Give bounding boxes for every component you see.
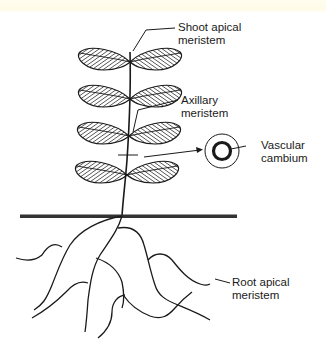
label-line: Shoot apical bbox=[178, 21, 241, 34]
vascular-cambium-ring bbox=[214, 143, 231, 160]
label-line: meristem bbox=[232, 289, 290, 302]
label-line: Axillary bbox=[181, 94, 228, 107]
label-shoot-apical-meristem: Shoot apical meristem bbox=[178, 21, 241, 46]
label-axillary-meristem: Axillary meristem bbox=[181, 94, 228, 119]
label-line: meristem bbox=[178, 34, 241, 47]
shoot-apical-leader bbox=[133, 28, 175, 51]
label-line: Root apical bbox=[232, 276, 290, 289]
label-line: meristem bbox=[181, 107, 228, 120]
cross-section-outer bbox=[205, 134, 239, 168]
ground-line bbox=[20, 215, 237, 219]
diagram-canvas: Shoot apical meristem Axillary meristem … bbox=[0, 0, 326, 353]
root-apical-leader bbox=[215, 279, 230, 283]
cross-section-arrow bbox=[144, 150, 200, 157]
label-line: Vascular bbox=[261, 139, 308, 152]
label-root-apical-meristem: Root apical meristem bbox=[232, 276, 290, 301]
label-vascular-cambium: Vascular cambium bbox=[261, 139, 308, 164]
label-line: cambium bbox=[261, 152, 308, 165]
root-system bbox=[16, 216, 210, 338]
